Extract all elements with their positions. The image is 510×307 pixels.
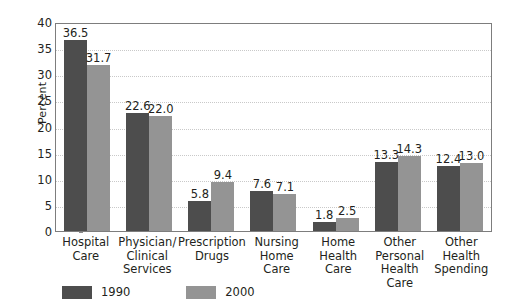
bar-value-label: 22.6: [125, 100, 151, 112]
x-axis-category-label: Other HealthSpending: [431, 234, 493, 280]
bar-column: 14.3: [398, 24, 421, 231]
y-axis-tick-label: 15: [24, 147, 52, 161]
bar-pair: 7.67.1: [242, 24, 304, 231]
bar-column: 2.5: [336, 24, 359, 231]
legend-label-1990: 1990: [101, 286, 130, 299]
bar[interactable]: [250, 191, 273, 231]
y-axis-tick-labels: 0510152025303540: [24, 23, 52, 232]
x-axis-label-line: Home: [246, 250, 308, 264]
bar-group: 36.531.7: [56, 24, 118, 231]
bar-value-label: 7.1: [276, 181, 294, 193]
bar-column: 9.4: [211, 24, 234, 231]
bar-chart: Percent 0510152025303540 36.531.722.622.…: [0, 0, 510, 307]
legend-item-2000: 2000: [186, 286, 254, 299]
bar-group: 7.67.1: [242, 24, 304, 231]
bar[interactable]: [375, 162, 398, 231]
x-axis-label-line: Care: [55, 250, 117, 264]
x-axis-label-line: Health: [307, 250, 369, 264]
bar-group: 5.89.4: [180, 24, 242, 231]
x-axis-category-labels: HospitalCarePhysician/ClinicalServicesPr…: [55, 234, 492, 280]
x-axis-label-line: Other: [369, 236, 431, 250]
legend-swatch-icon-2000: [186, 286, 216, 299]
y-axis-tick-label: 40: [24, 16, 52, 30]
bar-column: 31.7: [87, 24, 110, 231]
bar-pair: 5.89.4: [180, 24, 242, 231]
bar-column: 1.8: [313, 24, 336, 231]
bar-value-label: 9.4: [214, 169, 232, 181]
bar-value-label: 14.3: [396, 143, 422, 155]
bar-group: 22.622.0: [118, 24, 180, 231]
x-axis-label-line: Care: [307, 263, 369, 277]
bar-group: 1.82.5: [305, 24, 367, 231]
bar-column: 13.0: [460, 24, 483, 231]
x-axis-label-line: Hospital: [55, 236, 117, 250]
bar[interactable]: [460, 163, 483, 231]
bar[interactable]: [126, 113, 149, 231]
bar-column: 22.6: [126, 24, 149, 231]
legend-label-2000: 2000: [225, 286, 254, 299]
x-axis-category-label: OtherPersonalHealth Care: [369, 234, 431, 280]
y-axis-tick-label: 5: [24, 199, 52, 213]
x-axis-label-line: Clinical: [117, 250, 179, 264]
x-axis-label-line: Home: [307, 236, 369, 250]
bar[interactable]: [336, 218, 359, 231]
bar-column: 7.1: [273, 24, 296, 231]
y-axis-tick-label: 0: [24, 225, 52, 239]
bar-pair: 12.413.0: [429, 24, 491, 231]
bar-value-label: 22.0: [148, 103, 174, 115]
bar[interactable]: [437, 166, 460, 231]
bar-group: 12.413.0: [429, 24, 491, 231]
y-axis-tick-label: 20: [24, 121, 52, 135]
plot-area: 36.531.722.622.05.89.47.67.11.82.513.314…: [55, 23, 492, 232]
x-axis-category-label: HomeHealthCare: [307, 234, 369, 280]
y-axis-tick-label: 30: [24, 68, 52, 82]
bar-group: 13.314.3: [367, 24, 429, 231]
x-axis-label-line: Spending: [431, 263, 493, 277]
x-axis-label-line: Care: [246, 263, 308, 277]
bar[interactable]: [149, 116, 172, 231]
bar[interactable]: [87, 65, 110, 231]
bar-value-label: 2.5: [338, 205, 356, 217]
x-axis-label-line: Other Health: [431, 236, 493, 263]
bar-column: 22.0: [149, 24, 172, 231]
chart-legend: 1990 2000: [55, 283, 315, 301]
bar-column: 13.3: [375, 24, 398, 231]
bar-column: 12.4: [437, 24, 460, 231]
bar-column: 7.6: [250, 24, 273, 231]
bar[interactable]: [188, 201, 211, 231]
bar[interactable]: [398, 156, 421, 231]
bar-value-label: 13.3: [373, 149, 399, 161]
x-axis-label-line: Personal: [369, 250, 431, 264]
bar[interactable]: [313, 222, 336, 231]
bar-column: 5.8: [188, 24, 211, 231]
bar[interactable]: [211, 182, 234, 231]
bar-value-label: 1.8: [315, 209, 333, 221]
x-axis-label-line: Prescription: [178, 236, 246, 250]
x-axis-label-line: Health Care: [369, 263, 431, 290]
y-axis-tick-label: 35: [24, 42, 52, 56]
bar-pair: 22.622.0: [118, 24, 180, 231]
x-axis-label-line: Drugs: [178, 250, 246, 264]
x-axis-category-label: PrescriptionDrugs: [178, 234, 246, 280]
y-axis-tick-label: 10: [24, 173, 52, 187]
bar[interactable]: [273, 194, 296, 231]
bar-value-label: 7.6: [253, 178, 271, 190]
legend-item-1990: 1990: [62, 286, 130, 299]
x-axis-label-line: Physician/: [117, 236, 179, 250]
bar-value-label: 31.7: [86, 52, 112, 64]
bar-pair: 36.531.7: [56, 24, 118, 231]
bar-pair: 13.314.3: [367, 24, 429, 231]
x-axis-category-label: HospitalCare: [55, 234, 117, 280]
bar-value-label: 5.8: [191, 188, 209, 200]
x-axis-label-line: Nursing: [246, 236, 308, 250]
y-axis-tick-mark: [79, 232, 83, 233]
x-axis-label-line: Services: [117, 263, 179, 277]
bar-value-label: 13.0: [459, 150, 485, 162]
bar-column: 36.5: [64, 24, 87, 231]
bar[interactable]: [64, 40, 87, 231]
bar-value-label: 12.4: [436, 153, 462, 165]
legend-swatch-icon-1990: [62, 286, 92, 299]
bar-pair: 1.82.5: [305, 24, 367, 231]
y-axis-tick-label: 25: [24, 94, 52, 108]
bar-value-label: 36.5: [63, 27, 89, 39]
